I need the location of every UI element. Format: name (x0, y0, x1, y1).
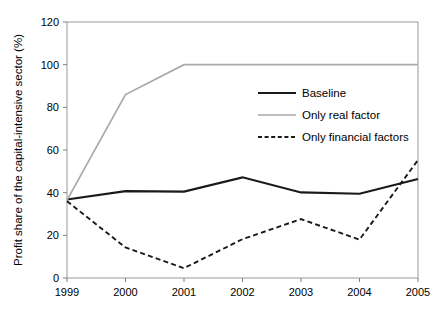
line-chart: 020406080100120 199920002001200220032004… (0, 0, 434, 318)
x-axis-tick-label: 1999 (55, 286, 79, 298)
y-axis-ticks (63, 22, 67, 278)
x-axis-tick-label: 2001 (172, 286, 196, 298)
x-axis-ticks (67, 278, 418, 282)
y-axis-tick-labels: 020406080100120 (41, 16, 59, 284)
y-axis-tick-label: 120 (41, 16, 59, 28)
legend-label: Only financial factors (302, 131, 409, 143)
legend-label: Only real factor (302, 109, 380, 121)
y-axis-tick-label: 60 (47, 144, 59, 156)
x-axis-tick-label: 2000 (113, 286, 137, 298)
y-axis-tick-label: 20 (47, 229, 59, 241)
x-axis-tick-label: 2003 (289, 286, 313, 298)
y-axis-tick-label: 100 (41, 59, 59, 71)
legend-label: Baseline (302, 87, 346, 99)
x-axis-tick-label: 2002 (230, 286, 254, 298)
y-axis-tick-label: 40 (47, 187, 59, 199)
x-axis-tick-label: 2004 (347, 286, 371, 298)
x-axis-tick-labels: 1999200020012002200320042005 (55, 286, 430, 298)
y-axis-tick-label: 80 (47, 101, 59, 113)
y-axis-tick-label: 0 (53, 272, 59, 284)
y-axis-title: Profit share of the capital-intensive se… (12, 34, 24, 266)
chart-figure: 020406080100120 199920002001200220032004… (0, 0, 434, 318)
x-axis-tick-label: 2005 (406, 286, 430, 298)
